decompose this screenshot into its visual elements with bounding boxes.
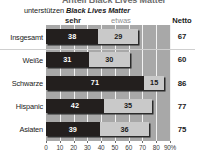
netto-value: 77 xyxy=(170,102,194,111)
bar-segment-sehr: 38 xyxy=(46,29,98,44)
bar-value-label: 38 xyxy=(68,33,76,40)
netto-value: 75 xyxy=(170,125,194,134)
x-tick-label: 30 xyxy=(84,144,91,151)
bar-value-label: 31 xyxy=(63,56,71,63)
stacked-bar: 3829 xyxy=(46,29,138,44)
bar-segment-sehr: 31 xyxy=(46,52,89,67)
chart-subtitle: unterstützen Black Lives Matter xyxy=(24,6,130,15)
stacked-bar: 4235 xyxy=(46,99,152,114)
bar-segment-sehr: 39 xyxy=(46,122,100,137)
bar-segment-etwas: 35 xyxy=(104,99,152,114)
category-label: Schwarze xyxy=(0,79,43,88)
bar-value-label: 36 xyxy=(120,126,128,133)
column-header-netto: Netto xyxy=(170,16,194,25)
stacked-bar: 3936 xyxy=(46,122,149,137)
bar-value-label: 71 xyxy=(91,79,99,86)
bar-segment-etwas: 36 xyxy=(100,122,150,137)
row-separator xyxy=(0,49,195,50)
bar-row: 3130 xyxy=(46,48,170,71)
bar-row: 7115 xyxy=(46,71,170,94)
bar-segment-sehr: 42 xyxy=(46,99,104,114)
bar-segment-etwas: 30 xyxy=(89,52,130,67)
netto-value: 60 xyxy=(170,55,194,64)
netto-value: 86 xyxy=(170,79,194,88)
x-tick-label: 50 xyxy=(112,144,119,151)
category-label: Hispanic xyxy=(0,102,43,111)
x-tick-label: 80 xyxy=(153,144,160,151)
bar-segment-etwas: 29 xyxy=(98,29,138,44)
bar-segment-sehr: 71 xyxy=(46,76,144,91)
legend-label-sehr: sehr xyxy=(52,16,94,25)
bar-value-label: 30 xyxy=(105,56,113,63)
x-tick-label: 40 xyxy=(98,144,105,151)
stacked-bar: 7115 xyxy=(46,76,164,91)
x-tick-label: 90% xyxy=(164,144,176,151)
category-label: Asiaten xyxy=(0,125,43,134)
bar-value-label: 29 xyxy=(114,33,122,40)
bar-segment-etwas: 15 xyxy=(144,76,165,91)
x-tick-label: 60 xyxy=(125,144,132,151)
x-tick-label: 10 xyxy=(56,144,63,151)
category-label: Insgesamt xyxy=(0,33,43,42)
category-label: Weiße xyxy=(0,56,43,65)
x-tick-label: 0 xyxy=(44,144,47,151)
bar-row: 3829 xyxy=(46,25,170,48)
chart-subtitle-prefix: unterstützen xyxy=(24,6,66,15)
bar-value-label: 15 xyxy=(150,79,158,86)
chart-subtitle-emphasis: Black Lives Matter xyxy=(66,6,130,15)
x-axis: 0102030405060708090% xyxy=(46,141,170,155)
bar-value-label: 39 xyxy=(69,126,77,133)
legend-label-etwas: etwas xyxy=(100,16,142,25)
plot-area: 38293130711542353936 xyxy=(46,25,170,141)
bar-value-label: 35 xyxy=(124,102,132,109)
netto-value: 67 xyxy=(170,32,194,41)
chart-title: Anteil Black Lives Matter xyxy=(44,0,184,5)
stacked-bar: 3130 xyxy=(46,52,130,67)
bar-value-label: 42 xyxy=(71,102,79,109)
bar-row: 4235 xyxy=(46,95,170,118)
x-tick-label: 70 xyxy=(139,144,146,151)
bar-row: 3936 xyxy=(46,118,170,141)
x-tick-label: 20 xyxy=(70,144,77,151)
